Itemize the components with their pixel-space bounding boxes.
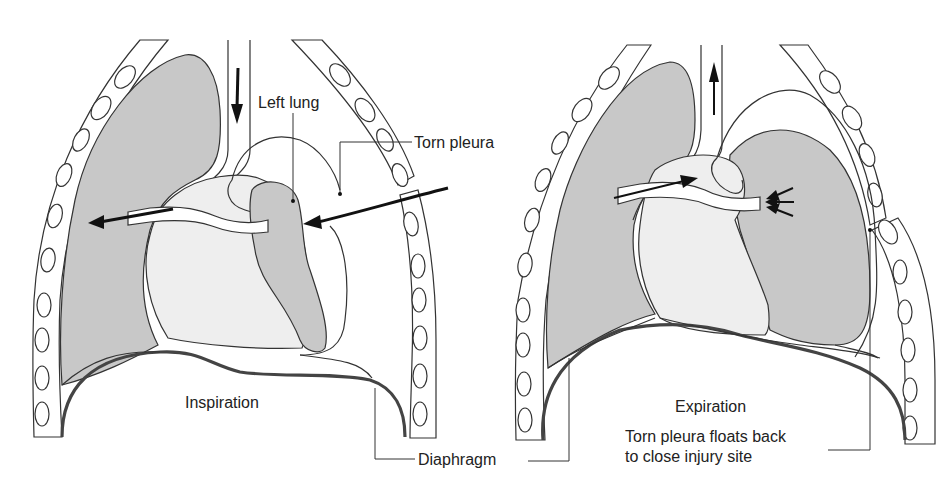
left-lung-label: Left lung <box>258 94 319 111</box>
pneumothorax-diagram: Left lung Torn pleura Inspiration <box>0 0 944 496</box>
inspiration-label: Inspiration <box>185 394 259 411</box>
expiration-panel: Expiration Torn pleura floats back to cl… <box>515 45 935 465</box>
diaphragm-label: Diaphragm <box>418 451 496 468</box>
torn-pleura-note-line1: Torn pleura floats back <box>625 428 787 445</box>
torn-pleura-label: Torn pleura <box>414 134 494 151</box>
trachea-air-down-arrow <box>231 68 243 124</box>
torn-pleura-note-line2: to close injury site <box>625 448 752 465</box>
air-entering-chest-wall-arrow <box>303 188 448 229</box>
expiration-label: Expiration <box>675 398 746 415</box>
trachea-air-up-arrow <box>709 62 719 115</box>
inspiration-panel: Left lung Torn pleura Inspiration <box>33 40 494 459</box>
